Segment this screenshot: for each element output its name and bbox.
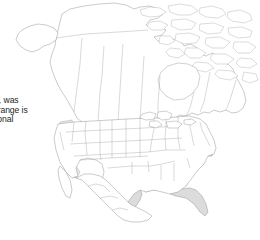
body-text-line-3-rest: Regional (0, 114, 13, 124)
body-text-line-2-rest: its range is (0, 105, 28, 115)
body-text-line-3: Regional (0, 115, 13, 125)
body-text-column: scrofa, was its range is Regional e. (0, 92, 64, 142)
body-text-line-1-rest: was (1, 95, 18, 105)
